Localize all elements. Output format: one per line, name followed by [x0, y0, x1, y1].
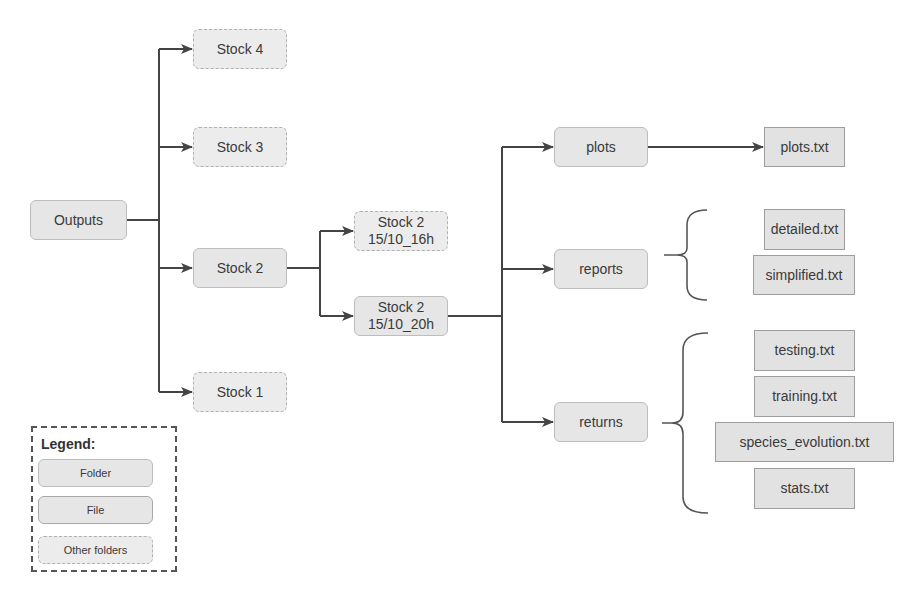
- file-detailed-txt[interactable]: detailed.txt: [764, 209, 845, 250]
- legend-item-folder: Folder: [38, 459, 153, 487]
- legend-label: Other folders: [64, 542, 128, 559]
- file-label: simplified.txt: [765, 267, 842, 284]
- folder-stock-4[interactable]: Stock 4: [193, 29, 287, 69]
- folder-label-line2: 15/10_16h: [368, 231, 434, 248]
- legend-title: Legend:: [41, 436, 95, 452]
- folder-label: Stock 4: [217, 41, 264, 58]
- folder-stock-2-16h[interactable]: Stock 2 15/10_16h: [354, 211, 448, 251]
- folder-label: Stock 3: [217, 139, 264, 156]
- folder-label: reports: [579, 261, 623, 278]
- folder-label: Stock 2: [217, 260, 264, 277]
- legend-item-other-folders: Other folders: [38, 536, 153, 564]
- file-label: testing.txt: [775, 342, 835, 359]
- brace-icon: [662, 210, 708, 513]
- folder-stock-3[interactable]: Stock 3: [193, 127, 287, 167]
- file-label: plots.txt: [780, 139, 828, 156]
- folder-label: returns: [579, 414, 623, 431]
- file-training-txt[interactable]: training.txt: [754, 376, 855, 417]
- folder-label: plots: [586, 139, 616, 156]
- file-label: training.txt: [772, 388, 837, 405]
- folder-label: Outputs: [54, 212, 103, 229]
- file-label: species_evolution.txt: [740, 434, 870, 451]
- folder-stock-1[interactable]: Stock 1: [193, 372, 287, 412]
- folder-label: Stock 1: [217, 384, 264, 401]
- legend-item-file: File: [38, 496, 153, 524]
- file-testing-txt[interactable]: testing.txt: [754, 330, 855, 371]
- folder-label-line1: Stock 2: [378, 214, 425, 231]
- folder-label-line2: 15/10_20h: [368, 316, 434, 333]
- legend-label: Folder: [80, 465, 111, 482]
- folder-stock-2[interactable]: Stock 2: [193, 248, 287, 288]
- file-plots-txt[interactable]: plots.txt: [764, 127, 845, 167]
- folder-stock-2-20h[interactable]: Stock 2 15/10_20h: [354, 296, 448, 336]
- folder-reports[interactable]: reports: [554, 249, 648, 289]
- folder-returns[interactable]: returns: [554, 402, 648, 442]
- file-label: detailed.txt: [771, 221, 839, 238]
- file-species-evolution-txt[interactable]: species_evolution.txt: [715, 422, 894, 462]
- file-simplified-txt[interactable]: simplified.txt: [753, 255, 855, 295]
- file-stats-txt[interactable]: stats.txt: [754, 468, 855, 509]
- legend: Legend: Folder File Other folders: [31, 426, 177, 572]
- folder-outputs[interactable]: Outputs: [30, 200, 127, 240]
- folder-label-line1: Stock 2: [378, 299, 425, 316]
- file-label: stats.txt: [780, 480, 828, 497]
- legend-label: File: [87, 502, 105, 519]
- folder-plots[interactable]: plots: [554, 127, 648, 167]
